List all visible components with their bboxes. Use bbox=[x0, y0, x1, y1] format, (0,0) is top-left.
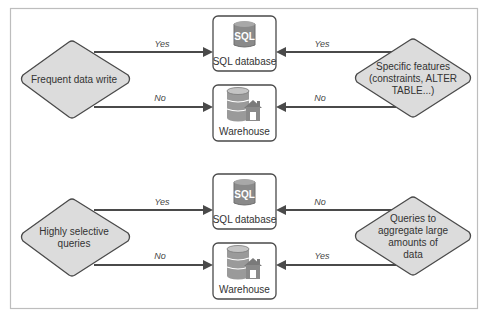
decision-label: Frequent data write bbox=[31, 74, 118, 85]
arrowhead bbox=[203, 47, 213, 57]
edge-label: No bbox=[314, 93, 326, 103]
arrowhead bbox=[276, 205, 286, 215]
node-warehouse: Warehouse bbox=[213, 243, 276, 299]
decision-aggregate-queries: Queries to aggregate large amounts of da… bbox=[356, 197, 471, 275]
edge-label: No bbox=[154, 251, 166, 261]
arrowhead bbox=[276, 47, 286, 57]
decision-label-line-4: data bbox=[403, 249, 423, 260]
decision-label-line-2: (constraints, ALTER bbox=[369, 73, 457, 84]
svg-text:SQL: SQL bbox=[234, 31, 255, 42]
node-warehouse: Warehouse bbox=[213, 85, 276, 141]
decision-label-line-3: TABLE...) bbox=[392, 85, 435, 96]
node-sql-database: SQL SQL database bbox=[213, 174, 277, 229]
decision-label-line-1: Queries to bbox=[390, 213, 437, 224]
decision-label-line-2: aggregate large bbox=[378, 225, 448, 236]
arrowhead bbox=[203, 205, 213, 215]
sql-database-icon: SQL bbox=[234, 21, 255, 47]
edge-left-to-warehouse: No bbox=[94, 251, 213, 270]
node-sql-database: SQL SQL database bbox=[213, 16, 277, 71]
sql-database-icon: SQL bbox=[234, 179, 255, 205]
edge-right-to-sql: No bbox=[276, 197, 396, 215]
arrowhead bbox=[203, 260, 213, 270]
arrowhead bbox=[276, 260, 286, 270]
decision-label-line-2: queries bbox=[58, 238, 91, 249]
edge-left-to-sql: Yes bbox=[94, 197, 213, 215]
edge-label: Yes bbox=[314, 251, 330, 261]
node-label: SQL database bbox=[213, 214, 277, 225]
edge-left-to-sql: Yes bbox=[94, 39, 213, 57]
node-label: SQL database bbox=[213, 56, 277, 67]
panel-1: Yes No Yes No Frequent data write Specif… bbox=[22, 16, 471, 141]
edge-left-to-warehouse: No bbox=[94, 93, 213, 112]
arrowhead bbox=[276, 102, 286, 112]
edge-label: No bbox=[314, 197, 326, 207]
edge-label: Yes bbox=[154, 39, 170, 49]
svg-text:SQL: SQL bbox=[234, 189, 255, 200]
panel-2: Yes No No Yes Highly selective queries Q… bbox=[22, 174, 471, 299]
node-label: Warehouse bbox=[219, 284, 270, 295]
arrowhead bbox=[203, 102, 213, 112]
node-label: Warehouse bbox=[219, 126, 270, 137]
decision-specific-features: Specific features (constraints, ALTER TA… bbox=[356, 39, 471, 117]
edge-label: Yes bbox=[154, 197, 170, 207]
decision-label-line-3: amounts of bbox=[388, 237, 438, 248]
decision-label-line-1: Specific features bbox=[376, 61, 450, 72]
decision-diagram: Yes No Yes No Frequent data write Specif… bbox=[0, 0, 486, 314]
decision-label-line-1: Highly selective bbox=[39, 226, 109, 237]
edge-label: No bbox=[154, 93, 166, 103]
edge-right-to-sql: Yes bbox=[276, 39, 396, 57]
edge-label: Yes bbox=[314, 39, 330, 49]
